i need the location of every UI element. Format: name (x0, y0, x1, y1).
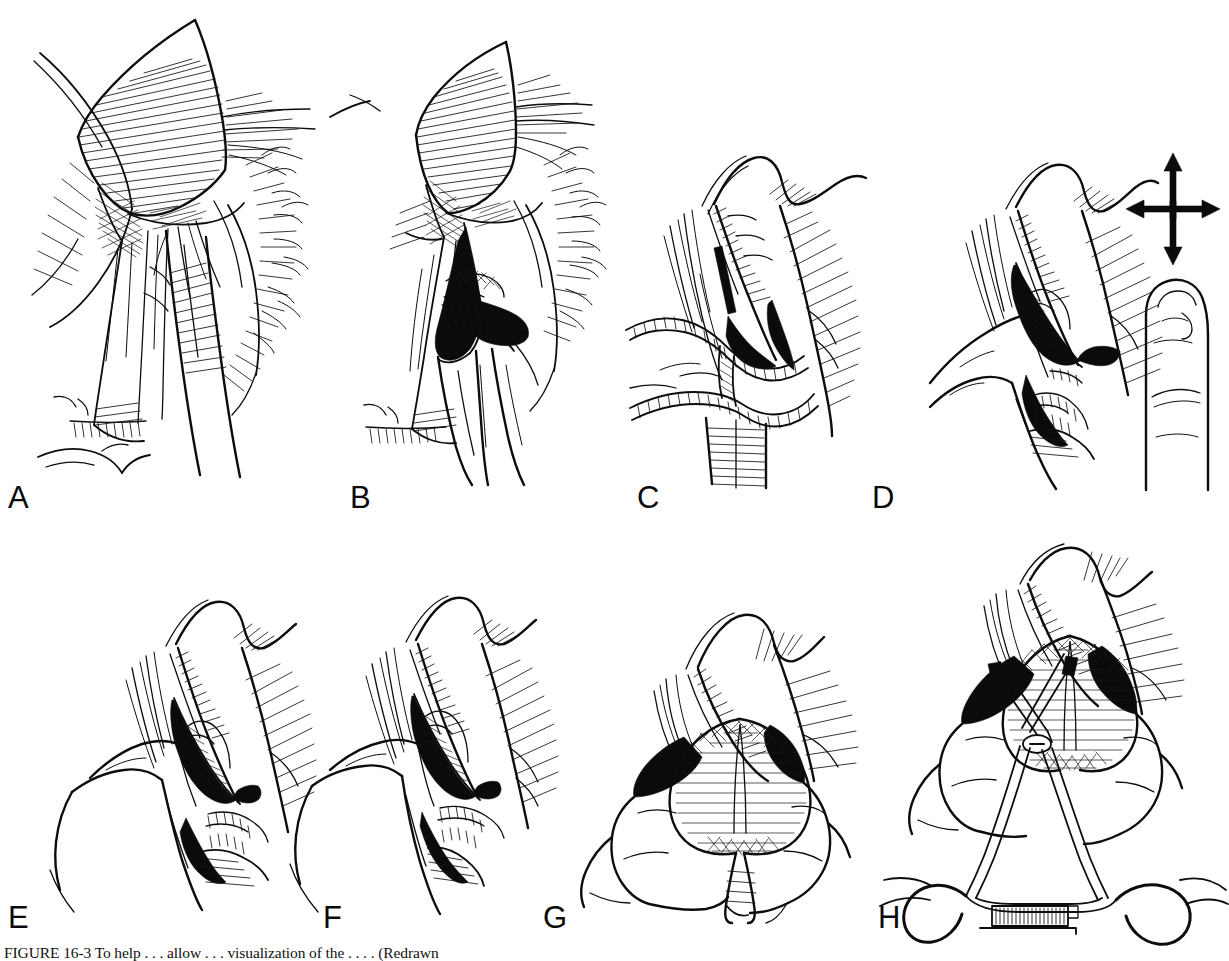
right-hatched-shadow (780, 206, 860, 436)
two-fingers (438, 345, 538, 485)
figure-caption: FIGURE 16-3 To help . . . allow . . . vi… (4, 944, 1226, 961)
dark-aperture (726, 300, 794, 370)
left-tissue-fibers (966, 215, 1012, 331)
striated-column (706, 418, 766, 488)
left-lower-tissue (630, 363, 718, 388)
panel-C-artwork (620, 140, 920, 490)
inserted-finger (290, 740, 440, 914)
upper-contour (686, 613, 824, 669)
panel-letter-C: C (637, 482, 659, 513)
panel-letter-A: A (8, 482, 29, 513)
panel-letter-D: D (872, 482, 894, 513)
fringed-tissue-margin (214, 147, 308, 415)
panel-H (880, 550, 1229, 940)
fringed-tissue-margin (514, 147, 606, 411)
panel-letter-H: H (878, 902, 900, 933)
upper-contour (1020, 544, 1152, 596)
blade-right-fringe (222, 93, 315, 175)
panel-G-artwork (580, 575, 910, 920)
panel-D-artwork (930, 145, 1229, 490)
retractor-blade (416, 42, 516, 213)
panel-letter-F: F (323, 902, 342, 933)
upper-contour (166, 600, 296, 650)
dark-aperture (411, 694, 501, 883)
sutured-edge (688, 669, 768, 781)
panel-B-artwork (330, 5, 630, 485)
opened-dark-cavity (435, 223, 528, 362)
right-hatched-shadow (482, 644, 558, 828)
left-edge-fragment (330, 95, 380, 117)
left-tissue-fibers (366, 648, 412, 764)
panel-E (10, 570, 320, 920)
panel-A (10, 5, 330, 485)
inserted-finger (50, 741, 202, 912)
panel-A-artwork (10, 5, 330, 485)
panel-G (580, 575, 910, 920)
blade-right-fringe (515, 75, 594, 169)
upper-left-contour (32, 53, 132, 327)
left-tissue-fibers (126, 652, 172, 768)
retractor-blade (78, 20, 226, 216)
panel-B (330, 5, 630, 485)
panel-letter-E: E (8, 902, 29, 933)
panel-D (930, 145, 1229, 490)
ring-handled-clamp (880, 654, 1228, 944)
panel-H-artwork (880, 550, 1229, 940)
left-tissue-fibers (664, 210, 722, 380)
upper-contour (406, 596, 536, 646)
panel-F (290, 570, 590, 920)
dark-aperture-wedges (962, 646, 1137, 724)
two-fingers (909, 714, 1182, 844)
right-hatched-shadow (1082, 211, 1162, 395)
lower-tissue-fold (38, 444, 150, 473)
box-lock-screw (1023, 735, 1051, 753)
midline-structure (144, 231, 240, 477)
panel-letter-G: G (543, 902, 567, 933)
upper-contour (702, 156, 866, 214)
figure-canvas: A (0, 0, 1229, 961)
four-way-arrow (1126, 153, 1220, 265)
crossing-tubular-structures (626, 317, 818, 429)
panel-C (620, 140, 920, 490)
isolated-fingertip (1146, 280, 1208, 490)
panel-F-artwork (290, 570, 590, 920)
panel-E-artwork (10, 570, 320, 920)
panel-letter-B: B (350, 482, 371, 513)
